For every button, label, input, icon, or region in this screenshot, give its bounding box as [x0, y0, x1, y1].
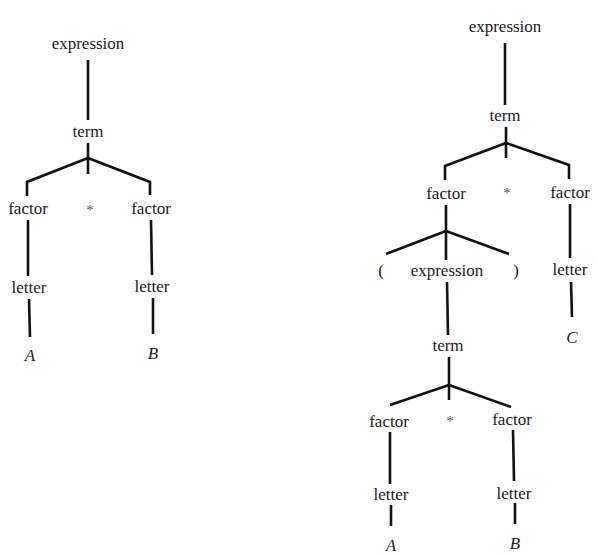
node-inner-letter-left: letter — [374, 485, 409, 504]
edge-term-factor-right — [88, 158, 150, 195]
node-factor-right: factor — [550, 183, 590, 202]
edge-term-factor-left — [445, 143, 506, 180]
edge-factor-open-paren — [386, 231, 446, 254]
node-operator: * — [86, 202, 94, 218]
edge-letter-leaf-left — [29, 299, 30, 337]
node-inner-operator: * — [446, 413, 454, 429]
leaf-b: B — [510, 534, 521, 553]
node-open-paren: ( — [378, 261, 384, 280]
edge-letter-leaf-c — [571, 282, 572, 317]
node-factor-right: factor — [131, 199, 171, 218]
node-inner-expression: expression — [411, 261, 484, 280]
edge-inner-term-factor-left — [390, 385, 449, 405]
edge-term-factor-left — [27, 158, 88, 196]
leaf-a: A — [385, 536, 397, 555]
node-term: term — [489, 106, 520, 125]
node-letter-left: letter — [12, 278, 47, 297]
edge-factor-letter-right — [151, 220, 152, 275]
node-inner-factor-right: factor — [492, 410, 532, 429]
node-letter-right: letter — [553, 260, 588, 279]
node-operator: * — [503, 185, 511, 201]
edge-inner-term-factor-right — [449, 385, 511, 407]
tree-left: expression term factor * factor letter l… — [8, 34, 171, 365]
edge-term-factor-right — [506, 143, 569, 179]
edge-factor-close-paren — [446, 231, 509, 254]
leaf-a: A — [24, 346, 36, 365]
leaf-b: B — [148, 344, 159, 363]
node-term: term — [72, 122, 103, 141]
leaf-c: C — [566, 328, 578, 347]
tree-right: expression term factor * factor ( expres… — [369, 17, 590, 555]
node-expression: expression — [52, 34, 125, 53]
parse-tree-diagram: expression term factor * factor letter l… — [0, 0, 598, 556]
node-inner-letter-right: letter — [497, 484, 532, 503]
node-inner-term: term — [432, 336, 463, 355]
node-factor-left: factor — [426, 184, 466, 203]
node-letter-right: letter — [135, 277, 170, 296]
node-factor-left: factor — [8, 199, 48, 218]
node-inner-factor-left: factor — [369, 412, 409, 431]
node-close-paren: ) — [513, 261, 519, 280]
edge-inner-expression-term — [447, 282, 448, 335]
node-expression: expression — [469, 17, 542, 36]
edge-inner-factor-letter-right — [513, 430, 514, 481]
